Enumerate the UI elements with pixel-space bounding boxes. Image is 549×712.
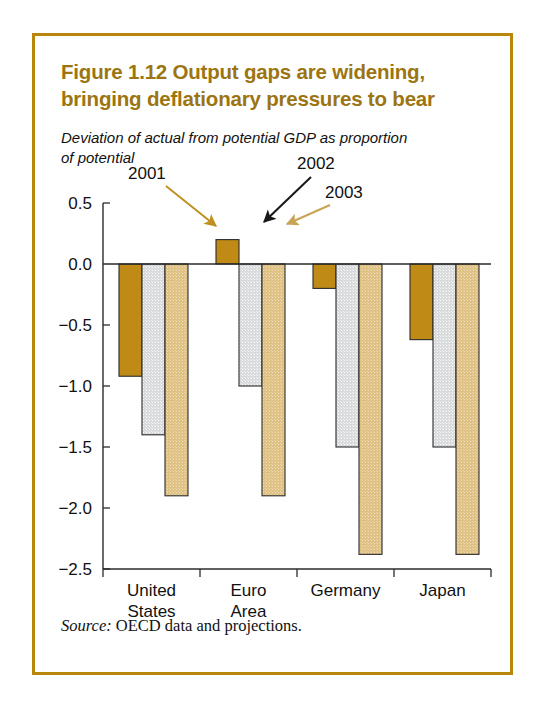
bar-series-group — [119, 240, 479, 555]
x-axis-label-euro-area: Euro — [231, 581, 267, 600]
bar-euro-area-2002 — [239, 264, 262, 386]
annotation-label-2001: 2001 — [128, 164, 166, 183]
bar-germany-2002 — [336, 264, 359, 447]
y-tick-label: −1.0 — [58, 377, 92, 396]
annotation-group: 200120022003 — [128, 154, 363, 226]
bar-japan-2003 — [456, 264, 479, 554]
y-tick-label: 0.0 — [68, 255, 92, 274]
bar-united-states-2002 — [142, 264, 165, 435]
annotation-arrow-2001 — [166, 186, 216, 226]
bar-euro-area-2003 — [262, 264, 285, 496]
y-tick-label: −2.5 — [58, 560, 92, 579]
x-axis-label-united-states: United — [127, 581, 176, 600]
x-axis-ticks-group — [103, 569, 491, 577]
annotation-label-2002: 2002 — [297, 154, 335, 173]
y-axis-ticks-group: 0.50.0−0.5−1.0−1.5−2.0−2.5 — [58, 194, 110, 579]
bar-united-states-2001 — [119, 264, 142, 376]
y-tick-label: −0.5 — [58, 316, 92, 335]
annotation-arrow-2002 — [264, 177, 311, 222]
bar-japan-2001 — [410, 264, 433, 340]
source-note: Source: OECD data and projections. — [61, 616, 491, 636]
figure-frame: Figure 1.12 Output gaps are widening, br… — [32, 33, 513, 675]
x-axis-label-germany: Germany — [311, 581, 381, 600]
bar-germany-2001 — [313, 264, 336, 288]
bar-japan-2002 — [433, 264, 456, 447]
y-tick-label: −1.5 — [58, 438, 92, 457]
y-tick-label: 0.5 — [68, 194, 92, 213]
source-text: OECD data and projections. — [112, 616, 302, 635]
y-tick-label: −2.0 — [58, 499, 92, 518]
bar-chart-plot: 0.50.0−0.5−1.0−1.5−2.0−2.5 UnitedStatesE… — [35, 36, 516, 678]
bar-germany-2003 — [359, 264, 382, 554]
bar-euro-area-2001 — [216, 240, 239, 264]
annotation-arrow-2003 — [287, 205, 330, 224]
annotation-label-2003: 2003 — [325, 183, 363, 202]
x-axis-labels-group: UnitedStatesEuroAreaGermanyJapan — [127, 581, 466, 621]
x-axis-label-japan: Japan — [419, 581, 465, 600]
source-label: Source: — [61, 616, 112, 635]
chart-svg: 0.50.0−0.5−1.0−1.5−2.0−2.5 UnitedStatesE… — [35, 36, 516, 678]
bar-united-states-2003 — [165, 264, 188, 496]
